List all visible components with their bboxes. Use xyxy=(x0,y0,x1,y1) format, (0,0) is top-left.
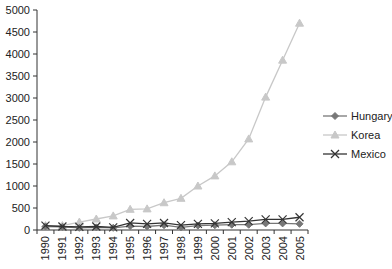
x-tick-label: 2003 xyxy=(260,236,272,260)
y-tick-label: 3000 xyxy=(6,92,30,104)
x-tick-label: 2000 xyxy=(209,236,221,260)
y-tick-label: 2000 xyxy=(6,136,30,148)
legend: HungaryKoreaMexico xyxy=(323,110,392,160)
y-tick-label: 4000 xyxy=(6,48,30,60)
x-axis: 1990199119921993199419951996199719981999… xyxy=(37,230,308,260)
y-tick-label: 500 xyxy=(12,202,30,214)
x-tick-label: 2001 xyxy=(226,236,238,260)
diamond-marker-icon xyxy=(332,113,339,120)
series-korea xyxy=(41,19,303,228)
triangle-marker-icon xyxy=(296,19,304,26)
series-line xyxy=(45,23,299,225)
diamond-marker-icon xyxy=(296,220,303,227)
triangle-marker-icon xyxy=(177,194,185,201)
y-tick-label: 2500 xyxy=(6,114,30,126)
triangle-marker-icon xyxy=(194,182,202,189)
x-tick-label: 1992 xyxy=(73,236,85,260)
y-tick-label: 1500 xyxy=(6,158,30,170)
triangle-marker-icon xyxy=(279,56,287,63)
y-axis: 0500100015002000250030003500400045005000 xyxy=(6,4,37,236)
diamond-marker-icon xyxy=(279,220,286,227)
triangle-marker-icon xyxy=(262,93,270,100)
x-tick-label: 1997 xyxy=(158,236,170,260)
line-chart: 0500100015002000250030003500400045005000… xyxy=(0,0,392,269)
x-tick-label: 1991 xyxy=(56,236,68,260)
x-tick-label: 2002 xyxy=(243,236,255,260)
legend-label: Korea xyxy=(351,129,381,141)
x-tick-label: 2005 xyxy=(294,236,306,260)
x-tick-label: 1993 xyxy=(90,236,102,260)
x-tick-label: 1994 xyxy=(107,236,119,260)
series-layer xyxy=(41,19,303,231)
x-tick-label: 1995 xyxy=(124,236,136,260)
x-tick-label: 2004 xyxy=(277,236,289,260)
y-tick-label: 1000 xyxy=(6,180,30,192)
triangle-marker-icon xyxy=(245,135,253,142)
diamond-marker-icon xyxy=(262,220,269,227)
legend-label: Mexico xyxy=(351,148,386,160)
legend-item-korea: Korea xyxy=(323,129,381,141)
y-tick-label: 0 xyxy=(24,224,30,236)
y-tick-label: 3500 xyxy=(6,70,30,82)
x-tick-label: 1999 xyxy=(192,236,204,260)
legend-item-mexico: Mexico xyxy=(323,148,386,160)
y-tick-label: 4500 xyxy=(6,26,30,38)
y-tick-label: 5000 xyxy=(6,4,30,16)
x-tick-label: 1998 xyxy=(175,236,187,260)
legend-label: Hungary xyxy=(351,110,392,122)
x-tick-label: 1996 xyxy=(141,236,153,260)
diamond-marker-icon xyxy=(245,221,252,228)
x-tick-label: 1990 xyxy=(39,236,51,260)
legend-item-hungary: Hungary xyxy=(323,110,392,122)
